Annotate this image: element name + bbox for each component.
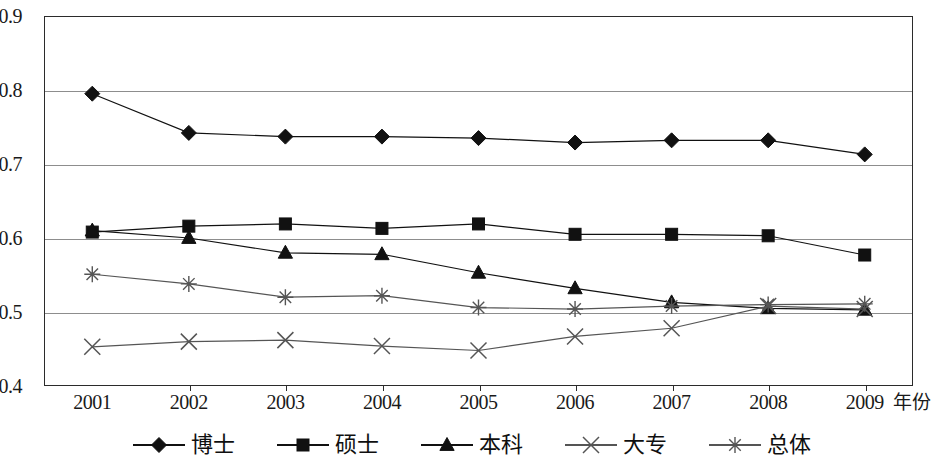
plot-area <box>44 16 913 386</box>
x-axis-tick-label: 2006 <box>540 392 610 412</box>
x-axis-tick-label: 2002 <box>154 392 224 412</box>
legend-item-大专[interactable]: 大专 <box>563 434 667 456</box>
triangle-icon <box>419 434 475 456</box>
legend-item-博士[interactable]: 博士 <box>131 434 235 456</box>
legend-label: 大专 <box>623 434 667 456</box>
square-marker <box>297 439 309 451</box>
square-icon <box>275 434 331 456</box>
y-axis-tick-label: 0.5 <box>0 302 28 322</box>
legend-item-本科[interactable]: 本科 <box>419 434 523 456</box>
x-icon <box>563 434 619 456</box>
legend-label: 总体 <box>767 434 811 456</box>
gridline <box>45 91 912 92</box>
gridline <box>45 313 912 314</box>
gridline <box>45 239 912 240</box>
diamond-icon <box>131 434 187 456</box>
line-chart: 年份 博士硕士本科大专总体 0.40.50.60.70.80.920012002… <box>0 0 941 464</box>
y-axis-tick-label: 0.7 <box>0 154 28 174</box>
x-axis-tick-label: 2009 <box>830 392 900 412</box>
y-axis-tick-label: 0.4 <box>0 376 28 396</box>
x-axis-tick-label: 2001 <box>57 392 127 412</box>
legend-item-硕士[interactable]: 硕士 <box>275 434 379 456</box>
y-axis-tick-label: 0.9 <box>0 6 28 26</box>
y-axis-tick-label: 0.8 <box>0 80 28 100</box>
y-axis-tick-label: 0.6 <box>0 228 28 248</box>
x-axis-tick-label: 2007 <box>637 392 707 412</box>
x-axis-tick-label: 2004 <box>347 392 417 412</box>
diamond-marker <box>151 437 166 452</box>
asterisk-marker <box>727 437 743 453</box>
legend-item-总体[interactable]: 总体 <box>707 434 811 456</box>
gridline <box>45 165 912 166</box>
legend-label: 硕士 <box>335 434 379 456</box>
chart-legend: 博士硕士本科大专总体 <box>0 425 941 464</box>
legend-label: 博士 <box>191 434 235 456</box>
x-axis-tick-label: 2003 <box>250 392 320 412</box>
asterisk-icon <box>707 434 763 456</box>
legend-label: 本科 <box>479 434 523 456</box>
x-axis-tick-label: 2005 <box>444 392 514 412</box>
triangle-marker <box>439 437 453 450</box>
x-axis-tick-label: 2008 <box>733 392 803 412</box>
